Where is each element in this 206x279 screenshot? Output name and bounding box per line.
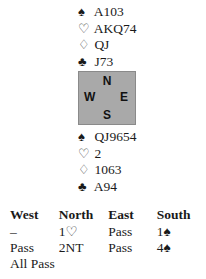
diamond-icon: ♢	[78, 37, 91, 54]
bidding-header: West North East South	[10, 207, 206, 223]
diamond-icon: ♢	[78, 162, 91, 179]
spade-icon: ♠	[78, 129, 91, 146]
club-icon: ♣	[78, 179, 91, 196]
south-diamonds: ♢ 1063	[78, 162, 136, 179]
header-west: West	[10, 207, 59, 223]
bidding-row: – 1♡ Pass 1♠	[10, 223, 206, 240]
north-spades: ♠ A103	[78, 4, 136, 21]
club-icon: ♣	[78, 54, 91, 71]
south-hearts: ♡ 2	[78, 146, 136, 163]
compass-west: W	[84, 90, 95, 104]
bidding-row: Pass 2NT Pass 4♠	[10, 240, 206, 256]
spade-icon: ♠	[78, 4, 91, 21]
south-hand: ♠ QJ9654 ♡ 2 ♢ 1063 ♣ A94	[78, 129, 136, 195]
heart-icon: ♡	[78, 146, 91, 163]
south-clubs: ♣ A94	[78, 179, 136, 196]
compass-box: N W E S	[78, 71, 136, 125]
north-hearts: ♡ AKQ74	[78, 21, 136, 38]
heart-icon: ♡	[78, 21, 91, 38]
header-east: East	[108, 207, 157, 223]
compass-east: E	[120, 90, 128, 104]
north-diamonds: ♢ QJ	[78, 37, 136, 54]
bidding-row: All Pass	[10, 256, 206, 272]
bidding-table: West North East South – 1♡ Pass 1♠ Pass …	[10, 207, 206, 272]
north-hand: ♠ A103 ♡ AKQ74 ♢ QJ ♣ J73	[78, 4, 136, 70]
compass-south: S	[79, 108, 135, 122]
compass-north: N	[79, 74, 135, 88]
header-north: North	[59, 207, 108, 223]
north-clubs: ♣ J73	[78, 54, 136, 71]
header-south: South	[157, 207, 206, 223]
south-spades: ♠ QJ9654	[78, 129, 136, 146]
